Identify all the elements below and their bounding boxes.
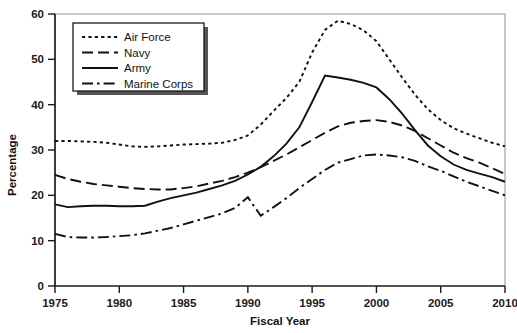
y-tick-label: 30 [31, 144, 44, 156]
legend-label-navy: Navy [124, 47, 150, 59]
x-tick-label: 2000 [364, 297, 390, 309]
y-axis-title: Percentage [6, 134, 18, 196]
x-tick-label: 1980 [106, 297, 132, 309]
x-tick-label: 1995 [299, 297, 325, 309]
line-chart: 0102030405060 19751980198519901995200020… [0, 0, 517, 333]
x-tick-label: 1985 [171, 297, 197, 309]
x-tick-label: 1975 [42, 297, 68, 309]
y-tick-label: 40 [31, 99, 44, 111]
y-tick-label: 10 [31, 235, 44, 247]
y-tick-label: 50 [31, 53, 44, 65]
chart-legend: Air ForceNavyArmyMarine Corps [73, 23, 208, 95]
legend-label-marine-corps: Marine Corps [124, 78, 193, 90]
y-tick-label: 60 [31, 8, 44, 20]
x-axis-title: Fiscal Year [250, 315, 310, 327]
x-tick-label: 2005 [428, 297, 454, 309]
chart-canvas: 0102030405060 19751980198519901995200020… [0, 0, 517, 333]
legend-label-army: Army [124, 62, 151, 74]
x-tick-label: 2010 [492, 297, 517, 309]
legend-label-air-force: Air Force [124, 31, 171, 43]
y-tick-label: 0 [38, 280, 44, 292]
x-tick-label: 1990 [235, 297, 261, 309]
y-tick-label: 20 [31, 189, 44, 201]
